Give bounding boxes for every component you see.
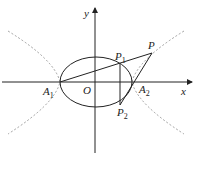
diagram-canvas [0,0,198,169]
point-A2-label: A2 [139,84,150,98]
x-axis-label: x [181,86,186,97]
conic-diagram: y x O A1 A2 P P1 P2 [0,0,198,169]
point-P-label: P [148,40,155,51]
point-A1-label: A1 [43,86,54,100]
point-P2-label: P2 [117,107,128,121]
point-P1-label: P1 [115,51,126,65]
y-axis-label: y [84,8,89,19]
line-A1-P [60,53,152,82]
origin-label: O [83,85,91,96]
